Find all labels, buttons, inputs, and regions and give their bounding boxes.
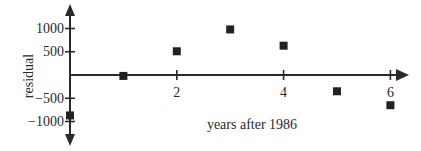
y-tick-label: 500 bbox=[43, 44, 64, 59]
x-axis-label: years after 1986 bbox=[207, 117, 297, 132]
x-tick-label: 2 bbox=[173, 85, 180, 100]
data-point-marker bbox=[386, 101, 394, 109]
y-tick-label: −500 bbox=[35, 91, 64, 106]
x-tick-label: 4 bbox=[280, 85, 287, 100]
y-axis-down-arrow-icon bbox=[65, 134, 75, 146]
y-tick-label: 1000 bbox=[36, 21, 64, 36]
data-point-marker bbox=[119, 72, 127, 80]
x-axis-arrow-icon bbox=[396, 69, 409, 81]
y-axis-label: residual bbox=[21, 54, 36, 98]
y-axis-up-arrow-icon bbox=[65, 4, 75, 16]
data-point-marker bbox=[226, 25, 234, 33]
data-point-marker bbox=[173, 47, 181, 55]
x-tick-label: 6 bbox=[387, 85, 394, 100]
data-point-marker bbox=[333, 87, 341, 95]
data-points bbox=[66, 25, 394, 119]
y-tick-label: −1000 bbox=[28, 114, 64, 129]
data-point-marker bbox=[66, 111, 74, 119]
residual-scatter-plot: 1000500−500−1000246 residual years after… bbox=[0, 0, 421, 151]
data-point-marker bbox=[280, 42, 288, 50]
